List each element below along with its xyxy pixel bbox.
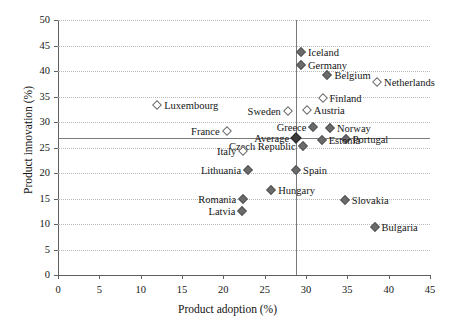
gridline-horizontal [58, 122, 430, 123]
y-tick-mark [54, 71, 58, 72]
x-tick-label: 25 [253, 284, 277, 295]
data-point-marker [266, 185, 276, 195]
x-tick-mark [389, 275, 390, 279]
y-tick-mark [54, 148, 58, 149]
y-axis-title: Product innovation (%) [22, 20, 34, 260]
data-point-marker [325, 123, 335, 133]
data-point-label: Iceland [308, 47, 339, 58]
x-tick-label: 40 [377, 284, 401, 295]
x-tick-label: 5 [87, 284, 111, 295]
plot-area: IcelandGermanyBelgiumNetherlandsFinlandL… [58, 20, 430, 275]
y-tick-mark [54, 46, 58, 47]
x-axis-title: Product adoption (%) [0, 303, 455, 315]
data-point-label: Hungary [278, 184, 315, 195]
data-point-label: Lithuania [201, 164, 241, 175]
average-line-vertical [296, 20, 297, 275]
data-point-marker [238, 194, 248, 204]
data-point-marker [340, 195, 350, 205]
data-point-label: Spain [303, 164, 327, 175]
x-tick-label: 0 [46, 284, 70, 295]
gridline-horizontal [58, 173, 430, 174]
data-point-label: Italy [217, 146, 236, 157]
data-point-marker [296, 47, 306, 57]
data-point-label: Luxembourg [164, 100, 218, 111]
y-tick-mark [54, 97, 58, 98]
y-tick-mark [54, 199, 58, 200]
data-point-label: Greece [277, 122, 307, 133]
data-point-label: Slovakia [352, 195, 389, 206]
data-point-label: Belgium [334, 70, 370, 81]
data-point-marker [222, 126, 232, 136]
data-point-label: Bulgaria [382, 222, 418, 233]
x-tick-label: 10 [129, 284, 153, 295]
x-tick-mark [265, 275, 266, 279]
gridline-horizontal [58, 97, 430, 98]
data-point-label: Norway [337, 123, 371, 134]
x-tick-mark [182, 275, 183, 279]
data-point-label: Austria [314, 104, 345, 115]
x-axis-line [58, 275, 431, 276]
y-tick-label: 0 [28, 269, 50, 280]
y-tick-mark [54, 224, 58, 225]
x-tick-label: 45 [418, 284, 442, 295]
data-point-marker [372, 77, 382, 87]
x-tick-label: 15 [170, 284, 194, 295]
data-point-marker [152, 100, 162, 110]
scatter-chart: IcelandGermanyBelgiumNetherlandsFinlandL… [0, 0, 455, 326]
x-tick-mark [306, 275, 307, 279]
y-tick-mark [54, 122, 58, 123]
x-tick-mark [347, 275, 348, 279]
data-point-label: Latvia [209, 206, 236, 217]
x-tick-mark [430, 275, 431, 279]
data-point-marker [283, 106, 293, 116]
data-point-marker [296, 60, 306, 70]
data-point-label: Estonia [329, 134, 361, 145]
x-tick-label: 20 [211, 284, 235, 295]
data-point-label: Sweden [248, 105, 281, 116]
x-tick-label: 35 [335, 284, 359, 295]
y-tick-mark [54, 173, 58, 174]
gridline-horizontal [58, 20, 430, 21]
y-tick-mark [54, 20, 58, 21]
data-point-marker [302, 105, 312, 115]
x-tick-mark [141, 275, 142, 279]
x-tick-mark [58, 275, 59, 279]
data-point-marker [317, 135, 327, 145]
data-point-marker [237, 206, 247, 216]
data-point-label: Finland [330, 93, 362, 104]
x-tick-mark [99, 275, 100, 279]
gridline-horizontal [58, 71, 430, 72]
data-point-label: France [191, 126, 220, 137]
data-point-marker [298, 141, 308, 151]
data-point-marker [308, 122, 318, 132]
data-point-label: Romania [198, 194, 236, 205]
data-point-label: Netherlands [384, 77, 435, 88]
gridline-horizontal [58, 46, 430, 47]
x-tick-mark [223, 275, 224, 279]
y-tick-mark [54, 250, 58, 251]
gridline-horizontal [58, 250, 430, 251]
data-point-marker [318, 93, 328, 103]
x-tick-label: 30 [294, 284, 318, 295]
